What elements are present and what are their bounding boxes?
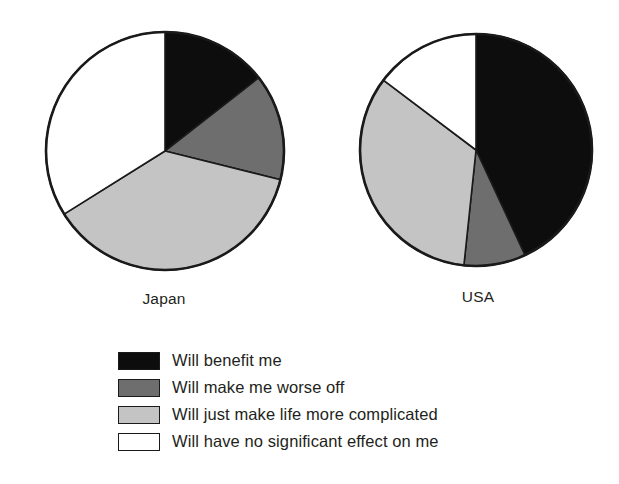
legend-item-no-effect: Will have no significant effect on me xyxy=(118,428,538,455)
pie-label-japan: Japan xyxy=(64,290,264,308)
legend-swatch-benefit xyxy=(118,352,160,370)
legend-swatch-worse-off xyxy=(118,379,160,397)
legend-swatch-no-effect xyxy=(118,433,160,451)
pie-chart-japan xyxy=(44,30,286,276)
legend-label-benefit: Will benefit me xyxy=(172,351,282,369)
legend-item-worse-off: Will make me worse off xyxy=(118,374,538,401)
pie-label-usa: USA xyxy=(378,288,578,306)
legend-label-no-effect: Will have no significant effect on me xyxy=(172,432,439,450)
pie-chart-figure: Japan USA Will benefit me Will make me w… xyxy=(0,0,619,484)
pie-japan-svg xyxy=(44,30,286,276)
legend-item-benefit: Will benefit me xyxy=(118,347,538,374)
legend-label-complicated: Will just make life more complicated xyxy=(172,405,438,423)
legend-label-worse-off: Will make me worse off xyxy=(172,378,344,396)
legend-swatch-complicated xyxy=(118,406,160,424)
legend: Will benefit me Will make me worse off W… xyxy=(118,347,538,455)
pie-chart-usa xyxy=(358,32,598,274)
legend-item-complicated: Will just make life more complicated xyxy=(118,401,538,428)
pie-usa-svg xyxy=(358,32,598,274)
